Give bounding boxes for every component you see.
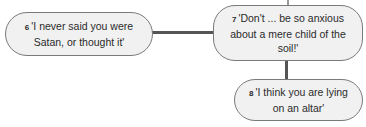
node-number: 6 xyxy=(25,23,29,32)
node-text: 'I never said you were Satan, or thought… xyxy=(31,20,133,48)
node-7: 7'Don't ... be so anxious about a mere c… xyxy=(213,5,363,61)
node-text: 'I think you are lying on an altar' xyxy=(255,86,347,114)
node-text: 'Don't ... be so anxious about a mere ch… xyxy=(230,12,346,54)
node-8: 8'I think you are lying on an altar' xyxy=(234,79,363,121)
node-number: 8 xyxy=(249,89,253,98)
node-number: 7 xyxy=(232,15,236,24)
connector-7-8 xyxy=(285,60,288,80)
node-6: 6'I never said you were Satan, or though… xyxy=(5,12,153,56)
connector-6-7 xyxy=(152,31,214,34)
